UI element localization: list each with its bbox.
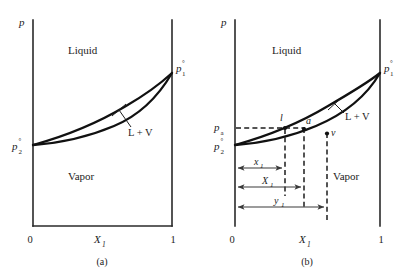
- panel-b-measurement-X1-base: X: [261, 175, 269, 186]
- panel-a-x-axis-label-base: X: [93, 233, 102, 245]
- panel-b-liquid-region-label: Liquid: [272, 44, 302, 56]
- panel-b-measurement-x1-base: x: [253, 156, 259, 167]
- panel-a-vapor-region-label: Vapor: [68, 170, 95, 182]
- panel-b-x-axis-label-sub: 1: [307, 240, 311, 249]
- panel-b-p2-superscript: °: [221, 137, 224, 145]
- panel-a-p1-subscript: 1: [182, 70, 186, 78]
- panel-a-p2-superscript: °: [19, 137, 22, 145]
- panel-b-xtick-1: 1: [378, 234, 383, 245]
- panel-a-p2-base: p: [11, 140, 18, 152]
- panel-b-liquid-point-marker: [283, 126, 287, 130]
- panel-b-overall-point-marker: [302, 127, 306, 131]
- panel-a-p1-superscript: °: [182, 59, 185, 67]
- panel-b-pa-base: p: [213, 121, 220, 133]
- panel-a-p1-base: p: [175, 62, 182, 74]
- panel-a-y-axis-label: p: [18, 16, 25, 28]
- panel-b-p2-subscript: 2: [221, 148, 225, 156]
- panel-b-p1-base: p: [383, 62, 390, 74]
- phase-diagram-svg: Liquid L + V Vapor p p 1 ° p 2 ° 0 1 X: [0, 0, 403, 273]
- panel-b-x-axis-label-base: X: [298, 233, 307, 245]
- panel-b-p2-base: p: [213, 140, 220, 152]
- panel-b-vapor-point-label: v: [331, 127, 336, 138]
- panel-a-caption: (a): [96, 256, 107, 268]
- panel-b-two-phase-region-label: L + V: [345, 111, 370, 122]
- panel-b-xtick-0: 0: [229, 234, 234, 245]
- panel-a-p2-subscript: 2: [19, 148, 23, 156]
- panel-a-liquid-region-label: Liquid: [68, 44, 98, 56]
- panel-b-measurement-X1-sub: 1: [270, 181, 274, 189]
- panel-b-p1-subscript: 1: [390, 70, 394, 78]
- panel-b-y-axis-label: p: [220, 16, 227, 28]
- panel-a-x-axis-label-sub: 1: [102, 240, 106, 249]
- panel-b-measurement-y1-base: y: [273, 195, 279, 206]
- panel-a-xtick-0: 0: [27, 234, 32, 245]
- panel-b-vapor-point-marker: [325, 131, 329, 135]
- panel-b-measurement-y1-sub: 1: [281, 201, 285, 209]
- panel-a-xtick-1: 1: [170, 234, 175, 245]
- panel-b-measurement-x1-sub: 1: [260, 162, 264, 170]
- panel-b-vapor-region-label: Vapor: [333, 170, 360, 182]
- panel-a-two-phase-region-label: L + V: [128, 127, 153, 138]
- panel-b-liquid-point-label: l: [280, 112, 283, 123]
- figure-container: Liquid L + V Vapor p p 1 ° p 2 ° 0 1 X: [0, 0, 403, 273]
- panel-b-caption: (b): [301, 256, 313, 268]
- panel-b-p1-superscript: °: [390, 59, 393, 67]
- panel-b-overall-point-label: a: [306, 115, 311, 126]
